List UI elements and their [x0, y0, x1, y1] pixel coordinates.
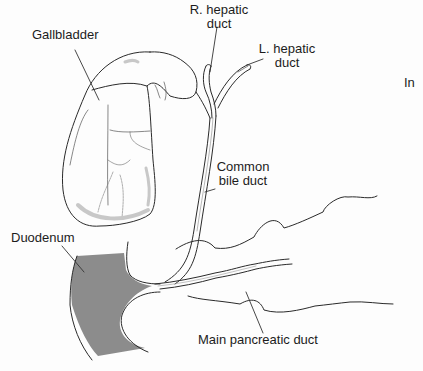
label-cut-text: In [404, 76, 415, 90]
label-cbd-line2: bile duct [208, 174, 278, 188]
label-gallbladder: Gallbladder [32, 28, 99, 42]
label-l-hepatic-line1: L. hepatic [248, 42, 326, 56]
label-cbd-line1: Common [208, 160, 278, 174]
label-r-hepatic-line1: R. hepatic [180, 3, 258, 17]
common-bile-duct [165, 116, 216, 284]
gallbladder-shape [62, 52, 196, 226]
label-common-bile-duct: Common bile duct [208, 160, 278, 188]
biliary-anatomy-diagram: Gallbladder R. hepatic duct L. hepatic d… [0, 0, 423, 371]
r-hepatic-leader [210, 27, 217, 72]
left-hepatic-duct [214, 65, 251, 108]
label-duodenum: Duodenum [11, 231, 75, 245]
pancreatic-duct-leader [246, 292, 263, 333]
duodenum-shape [70, 242, 160, 360]
label-l-hepatic-line2: duct [248, 56, 326, 70]
pancreas-shape [176, 196, 393, 312]
label-r-hepatic-line2: duct [180, 17, 258, 31]
right-hepatic-duct [203, 65, 216, 119]
label-r-hepatic-duct: R. hepatic duct [180, 3, 258, 31]
label-l-hepatic-duct: L. hepatic duct [248, 42, 326, 70]
label-main-pancreatic-duct: Main pancreatic duct [198, 333, 318, 347]
